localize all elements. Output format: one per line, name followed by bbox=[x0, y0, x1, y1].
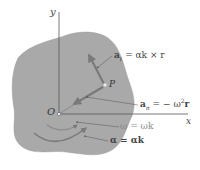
origin-point bbox=[57, 112, 60, 115]
origin-label: O bbox=[47, 107, 55, 117]
point-p-label: P bbox=[109, 80, 115, 89]
angular-velocity-label: ω = ωk bbox=[120, 122, 153, 131]
angular-acceleration-label: α = αk bbox=[110, 136, 144, 145]
a-n-expression-post: r bbox=[185, 99, 190, 109]
tangential-acceleration-label: at = αk × r bbox=[114, 51, 165, 60]
a-n-expression-pre: = − ω bbox=[150, 99, 181, 109]
y-axis-label: y bbox=[50, 7, 56, 17]
point-p bbox=[103, 83, 107, 87]
x-axis-label: x bbox=[186, 117, 191, 126]
a-t-expression: = αk × r bbox=[122, 50, 164, 60]
rigid-body-acceleration-diagram bbox=[0, 0, 200, 170]
normal-acceleration-label: an = − ω2r bbox=[140, 100, 189, 109]
